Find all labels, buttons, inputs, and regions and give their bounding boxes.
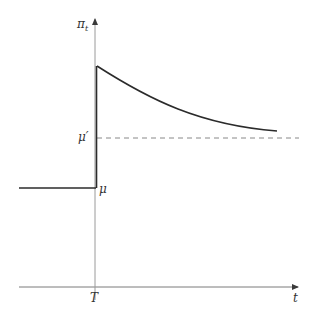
mu-prime-label: μ′ [78,130,89,144]
y-axis-label: πt [76,17,89,33]
mu-label: μ [99,182,107,196]
diagram: πt μ′ μ T t [0,0,313,320]
x-axis-label: t [293,291,298,305]
x-tick-label-T: T [90,291,99,305]
decay-curve [97,66,277,131]
